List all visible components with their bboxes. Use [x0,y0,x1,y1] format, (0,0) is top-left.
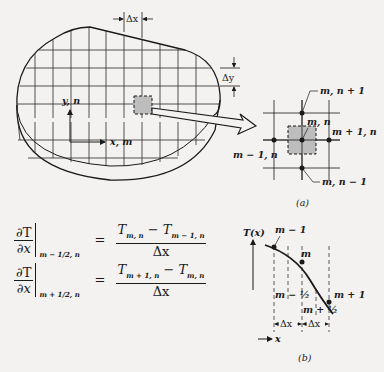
eq2-minus: − [159,262,178,277]
panel-a: m, n + 1 m, n m + 1, n m − 1, n m, n − 1… [233,85,377,208]
body-shape [10,20,230,180]
label-dx-left: Δx [280,318,293,329]
label-m-plus-half: m + ½ [303,304,338,315]
eq2-lhs-num: ∂T [14,265,33,281]
node-left [272,138,277,143]
eq2-lhs-den: ∂x [17,281,31,296]
eq1-t-a: T [118,222,127,237]
eq1-t-a-sub: m, n [126,231,143,240]
eq2-t-a: T [118,262,127,277]
eq1-equals: = [95,232,106,247]
panel-b: T(x) x m − 1 m m + 1 m − ½ m + ½ Δx Δx (… [243,224,365,363]
node-right [327,138,332,143]
eq2-equals: = [95,272,106,287]
caption-a: (a) [296,197,309,208]
y-axis-label-Tx: T(x) [243,227,265,238]
dx-label: Δx [126,13,139,24]
label-node-center: m, n [307,116,331,128]
caption-b: (b) [298,352,312,363]
axis-x-label: x, m [109,136,132,148]
label-dx-right: Δx [308,318,321,329]
dy-annotation: Δy [220,57,240,97]
label-node-left: m − 1, n [233,149,278,161]
equation-forward-difference: ∂T∂xm + 1/2, n = Tm + 1, n − Tm, nΔx [14,262,206,299]
label-m: m [301,248,311,259]
eq1-lhs-den: ∂x [17,241,31,256]
eq2-t-b: T [178,262,187,277]
equation-backward-difference: ∂T∂xm − 1/2, n = Tm, n − Tm − 1, nΔx [14,222,206,259]
eq1-lhs-num: ∂T [14,225,33,241]
axis-y-label: y, n [61,95,80,107]
label-node-right: m + 1, n [332,126,377,138]
label-node-top: m, n + 1 [320,85,365,97]
label-m-minus-half: m − ½ [275,289,310,300]
figure-canvas: Δx Δy y, n x, m m, n + 1 m, [0,0,384,372]
eq1-rhs-den: Δx [153,244,170,259]
eq2-t-b-sub: m, n [187,271,204,280]
eq1-minus: − [144,222,163,237]
eq2-eval-point: m + 1/2, n [39,290,79,299]
eq1-t-b-sub: m − 1, n [171,231,204,240]
grid [10,20,230,170]
x-axis-label: x [274,333,281,344]
shaded-cell [134,96,152,114]
dy-label: Δy [222,72,235,83]
eq1-eval-point: m − 1/2, n [39,250,79,259]
label-m-plus-1: m + 1 [334,289,365,300]
label-node-bottom: m, n − 1 [322,176,367,188]
label-m-minus-1: m − 1 [275,224,306,235]
eq2-rhs-den: Δx [153,284,170,299]
zoom-arrow-icon [152,108,256,134]
eq2-t-a-sub: m + 1, n [126,271,159,280]
